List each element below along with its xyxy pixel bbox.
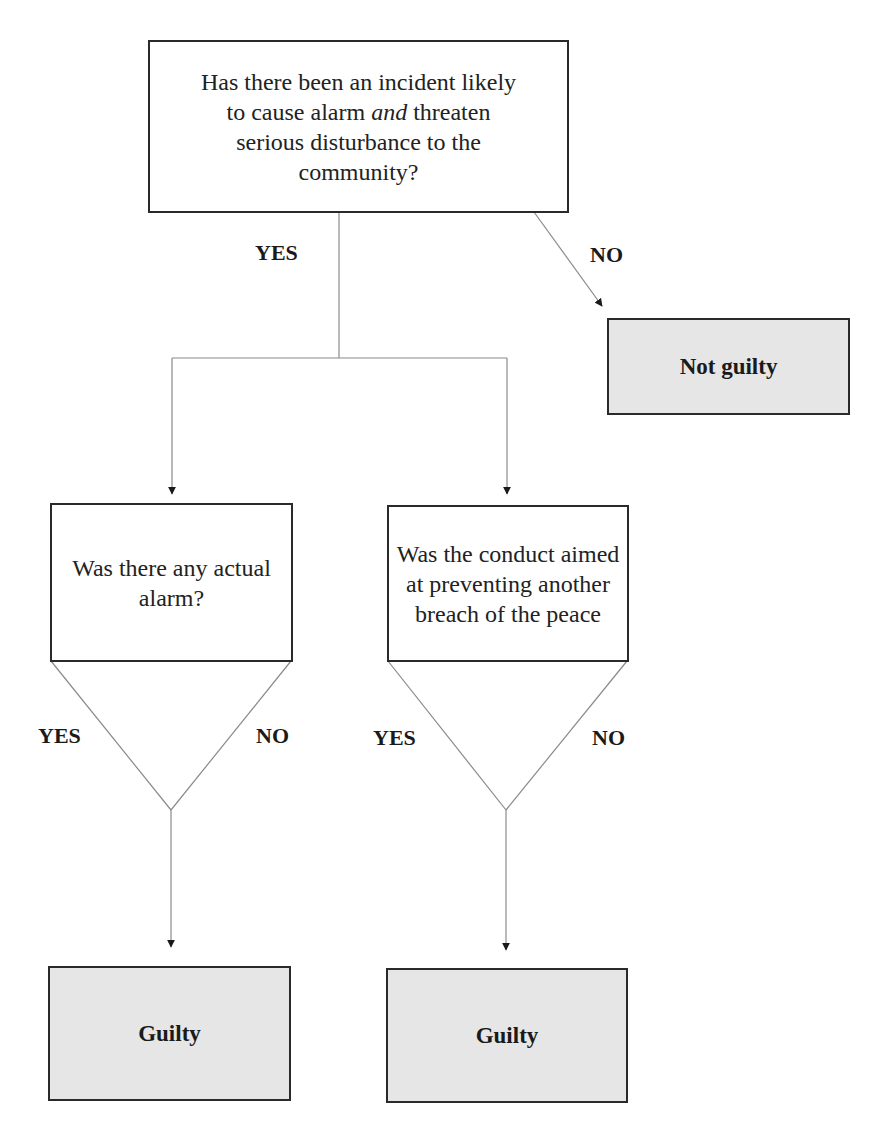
question-actual-alarm-text: Was there any actual alarm? [72, 553, 272, 613]
outcome-guilty-left-box: Guilty [48, 966, 291, 1101]
label-yes-q3: YES [373, 727, 416, 749]
question-actual-alarm-box: Was there any actual alarm? [50, 503, 293, 662]
question-incident-box: Has there been an incident likely to cau… [148, 40, 569, 213]
outcome-guilty-right-text: Guilty [476, 1023, 539, 1049]
label-yes-q2: YES [38, 725, 81, 747]
label-no-q1: NO [590, 244, 623, 266]
question-incident-text: Has there been an incident likely to cau… [194, 67, 524, 187]
question-conduct-aimed-text: Was the conduct aimed at preventing anot… [393, 539, 623, 629]
outcome-guilty-right-box: Guilty [386, 968, 628, 1103]
outcome-not-guilty-box: Not guilty [607, 318, 850, 415]
outcome-guilty-left-text: Guilty [138, 1021, 201, 1047]
outcome-not-guilty-text: Not guilty [680, 354, 778, 380]
emphasis-and: and [371, 99, 407, 125]
label-yes-q1: YES [255, 242, 298, 264]
label-no-q2: NO [256, 725, 289, 747]
label-no-q3: NO [592, 727, 625, 749]
question-conduct-aimed-box: Was the conduct aimed at preventing anot… [387, 505, 629, 662]
